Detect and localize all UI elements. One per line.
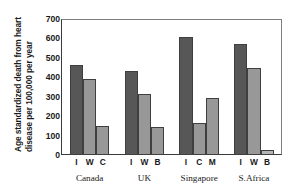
bar-label: B (261, 157, 274, 168)
bar-label: W (83, 157, 96, 168)
y-axis-tick-label: 200 (46, 111, 60, 121)
bar-label: C (96, 157, 109, 168)
bar (193, 123, 206, 155)
y-axis-title-line-1: Age standardized death from heart (13, 17, 23, 152)
bar (125, 71, 138, 155)
bar (206, 98, 219, 155)
bar-label: B (151, 157, 164, 168)
bar (179, 37, 192, 156)
group-label: S.Africa (227, 172, 282, 184)
x-axis-bar-labels: IWCIWBICMIWB (62, 157, 281, 169)
bar-label: I (125, 157, 138, 168)
group-label: UK (117, 172, 172, 184)
bar-chart: Age standardized death from heart diseas… (0, 0, 298, 196)
bar (247, 68, 260, 155)
bar-label: M (206, 157, 219, 168)
bar-label: I (179, 157, 192, 168)
y-axis-tick-label: 100 (46, 131, 60, 141)
bar (261, 150, 274, 155)
bar-label: W (247, 157, 260, 168)
group-label: Canada (62, 172, 117, 184)
bar-label: W (138, 157, 151, 168)
y-axis-tick-label: 600 (46, 33, 60, 43)
bar-label: C (193, 157, 206, 168)
bar-label: I (70, 157, 83, 168)
y-axis-tick-label: 500 (46, 53, 60, 63)
y-axis-tick-label: 700 (46, 14, 60, 24)
bar (138, 94, 151, 155)
y-axis-tick-label: 300 (46, 92, 60, 102)
group-label: Singapore (172, 172, 227, 184)
bar (96, 126, 109, 155)
bar (151, 127, 164, 155)
y-axis-tick-label: 400 (46, 72, 60, 82)
y-axis-tick-label: 0 (55, 150, 60, 160)
bar (234, 44, 247, 155)
bar (70, 65, 83, 155)
bar-label: I (234, 157, 247, 168)
bar (83, 79, 96, 155)
x-axis-group-labels: CanadaUKSingaporeS.Africa (62, 172, 281, 186)
bars-layer (62, 19, 281, 155)
